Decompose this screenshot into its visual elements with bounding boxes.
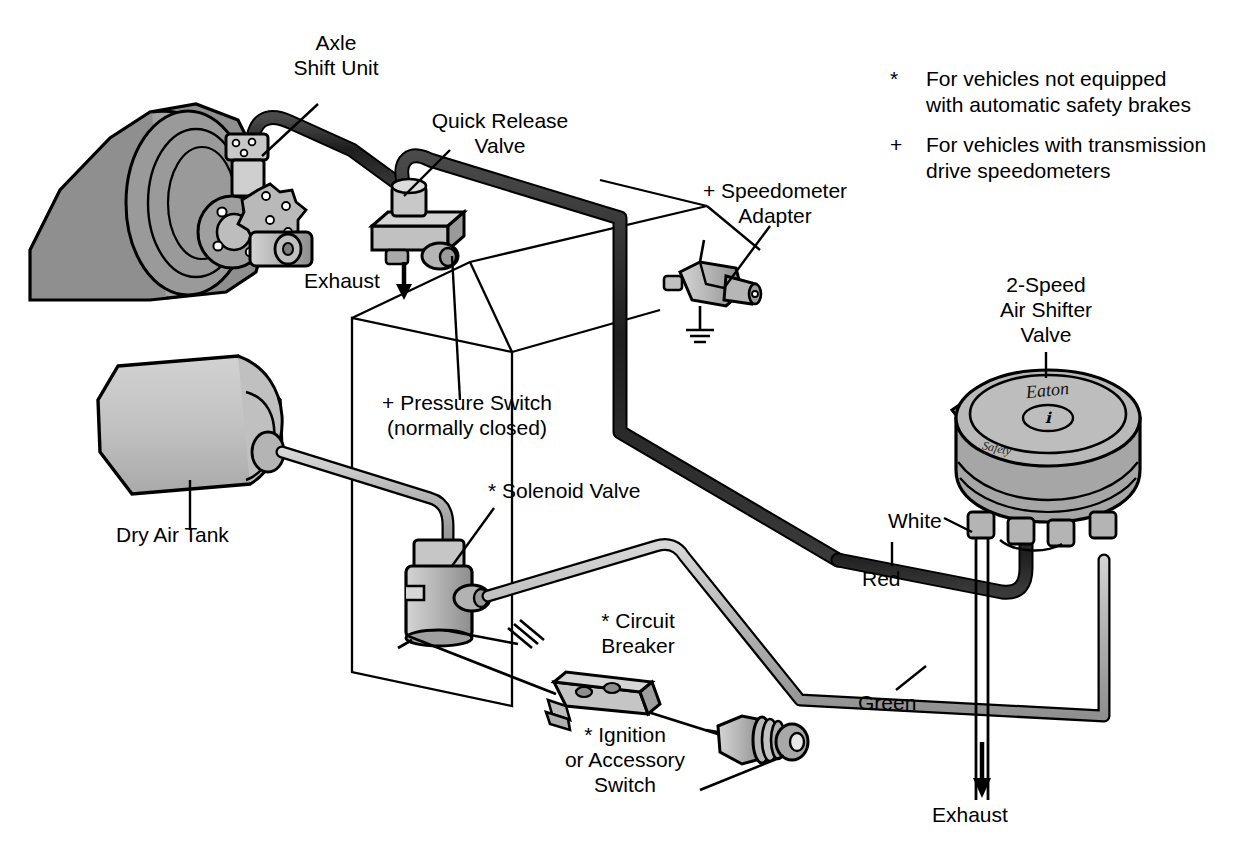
label-exhaust-bottom: Exhaust <box>932 802 1008 827</box>
label-exhaust-top: Exhaust <box>304 268 380 293</box>
label-wire-white: White <box>888 508 942 533</box>
legend-text-plus: For vehicles with transmission drive spe… <box>926 132 1240 184</box>
ground-symbol-icon <box>686 330 714 342</box>
legend-symbol-asterisk: * <box>890 66 916 92</box>
air-line-tank-to-solenoid <box>282 452 448 546</box>
legend-text-asterisk: For vehicles not equipped with automatic… <box>926 66 1240 118</box>
label-speedometer-adapter: + Speedometer Adapter <box>660 178 890 228</box>
label-air-shifter-valve: 2-Speed Air Shifter Valve <box>946 272 1146 347</box>
quick-release-valve <box>372 179 464 269</box>
legend-symbol-plus: + <box>890 132 916 158</box>
label-ignition-switch: * Ignition or Accessory Switch <box>500 722 750 797</box>
label-axle-shift-unit: Axle Shift Unit <box>246 30 426 80</box>
diagram-canvas: ℹ Eaton Safety <box>0 0 1253 854</box>
legend-item-asterisk: * For vehicles not equipped with automat… <box>890 66 1240 118</box>
dry-air-tank <box>98 356 284 530</box>
label-circuit-breaker: * Circuit Breaker <box>548 608 728 658</box>
air-shifter-valve: ℹ Eaton Safety <box>952 370 1140 550</box>
label-pressure-switch: + Pressure Switch (normally closed) <box>322 390 612 440</box>
label-quick-release-valve: Quick Release Valve <box>400 108 600 158</box>
speedometer-adapter <box>664 240 761 342</box>
label-solenoid-valve: * Solenoid Valve <box>488 478 641 503</box>
label-wire-red: Red <box>862 566 901 591</box>
down-arrow-icon <box>396 262 412 300</box>
label-wire-green: Green <box>858 690 916 715</box>
valve-badge-glyph: ℹ <box>1045 410 1052 426</box>
legend-item-plus: + For vehicles with transmission drive s… <box>890 132 1240 184</box>
label-dry-air-tank: Dry Air Tank <box>116 522 229 547</box>
axle-shift-unit <box>30 104 312 300</box>
